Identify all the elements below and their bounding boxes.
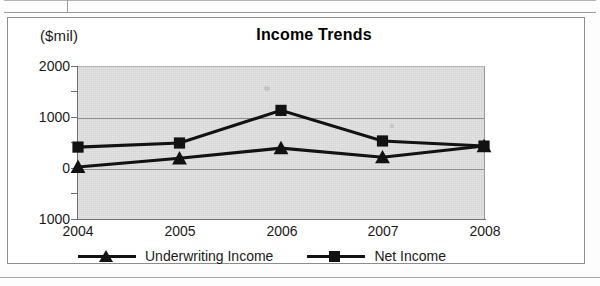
plot-area — [78, 66, 485, 219]
legend-item-net-income: Net Income — [307, 248, 446, 264]
y-tick-500 — [71, 142, 78, 143]
x-axis-label-2004: 2004 — [48, 223, 108, 239]
x-axis-label-2006: 2006 — [252, 223, 312, 239]
plot-scan-texture — [78, 67, 484, 219]
scanned-page: ($mil) Income Trends 2000 1000 0 1000 20… — [0, 0, 600, 286]
gridline-0 — [78, 169, 484, 170]
y-tick-1500 — [71, 91, 78, 92]
square-marker-icon — [307, 249, 365, 263]
triangle-marker-icon — [78, 249, 136, 263]
scan-speckle — [390, 124, 394, 128]
legend-item-underwriting-income: Underwriting Income — [78, 248, 273, 264]
legend-label-underwriting-income: Underwriting Income — [145, 248, 273, 264]
chart-legend: Underwriting Income Net Income — [78, 246, 498, 266]
y-tick-m1000 — [71, 219, 78, 220]
y-tick-m500 — [71, 193, 78, 194]
y-tick-2000 — [71, 66, 78, 67]
y-tick-1000 — [71, 117, 78, 118]
x-axis-label-2007: 2007 — [353, 223, 413, 239]
table-fragment-above-chart — [4, 0, 596, 13]
x-axis-label-2005: 2005 — [150, 223, 210, 239]
gridline-1000 — [78, 118, 484, 119]
page-bottom-rule — [0, 277, 600, 278]
y-tick-0 — [71, 168, 78, 169]
y-axis-label-1000: 1000 — [14, 109, 70, 125]
table-fragment-top-rule — [4, 0, 596, 1]
y-axis-line — [77, 66, 78, 220]
y-axis-labels: 2000 1000 0 1000 — [12, 0, 70, 286]
x-axis-label-2008: 2008 — [455, 223, 515, 239]
y-axis-label-2000: 2000 — [14, 58, 70, 74]
chart-title: Income Trends — [0, 26, 600, 44]
x-axis-line — [77, 219, 486, 220]
scan-speckle — [264, 86, 270, 91]
y-axis-label-0: 0 — [14, 160, 70, 176]
legend-label-net-income: Net Income — [374, 248, 446, 264]
